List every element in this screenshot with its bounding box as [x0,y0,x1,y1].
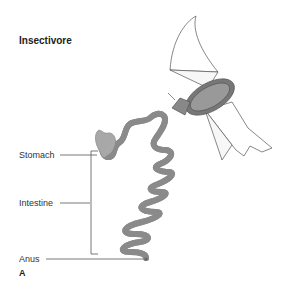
anus-marker [144,257,147,260]
bat-icon [168,16,272,160]
digestive-tract-illustration [0,0,290,292]
panel-label: A [19,268,26,278]
